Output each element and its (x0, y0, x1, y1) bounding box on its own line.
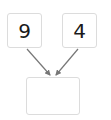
input-box-right: 4 (62, 13, 97, 48)
input-value-right: 4 (73, 19, 86, 43)
result-box[interactable] (26, 77, 80, 115)
arrow-left-to-result (27, 49, 50, 75)
input-value-left: 9 (18, 19, 31, 43)
input-box-left: 9 (7, 13, 42, 48)
arrow-right-to-result (56, 49, 78, 75)
